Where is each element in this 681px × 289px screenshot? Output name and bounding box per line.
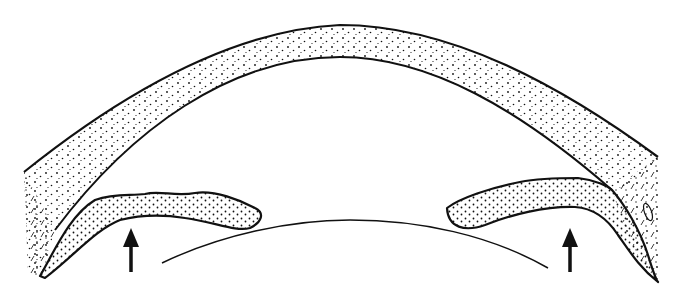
- arrow-up-left-icon: [123, 228, 139, 272]
- eye-anterior-segment-diagram: Line drawing of the anterior segment of …: [0, 0, 681, 289]
- cornea: [24, 25, 658, 276]
- lens-surface: [162, 220, 548, 268]
- arrow-up-right-icon: [562, 228, 578, 272]
